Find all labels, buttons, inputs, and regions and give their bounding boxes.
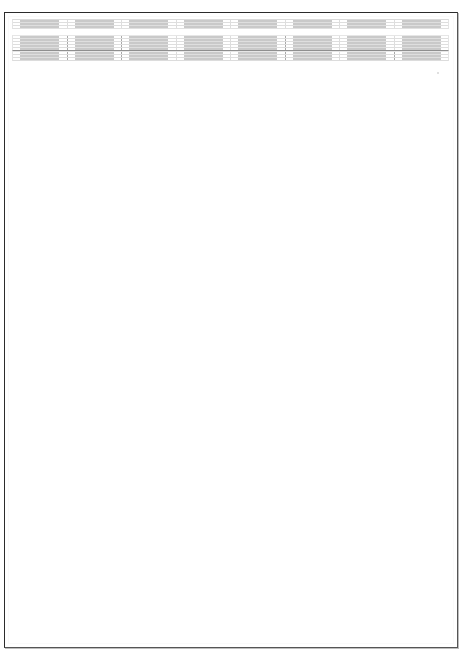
grid-cell[interactable] bbox=[286, 23, 341, 25]
grid-cell[interactable] bbox=[177, 48, 232, 50]
grid-cell[interactable] bbox=[177, 23, 232, 25]
grid-cell[interactable] bbox=[177, 45, 232, 47]
grid-cell[interactable] bbox=[13, 26, 68, 28]
grid-cell[interactable] bbox=[340, 26, 395, 28]
grid-cell[interactable] bbox=[13, 58, 68, 60]
grid-cell[interactable] bbox=[286, 20, 341, 22]
grid-cell[interactable] bbox=[13, 20, 68, 22]
grid-cell[interactable] bbox=[177, 26, 232, 28]
grid-cell[interactable] bbox=[13, 36, 68, 38]
grid-cell[interactable] bbox=[122, 39, 177, 41]
grid-cell[interactable] bbox=[395, 58, 449, 60]
grid-cell[interactable] bbox=[231, 39, 286, 41]
grid-cell[interactable] bbox=[122, 58, 177, 60]
grid-cell[interactable] bbox=[68, 26, 123, 28]
grid-cell[interactable] bbox=[340, 20, 395, 22]
grid-cell[interactable] bbox=[177, 58, 232, 60]
grid-cell[interactable] bbox=[286, 48, 341, 50]
grid-cell[interactable] bbox=[122, 20, 177, 22]
grid-cell[interactable] bbox=[231, 42, 286, 44]
grid-cell[interactable] bbox=[231, 48, 286, 50]
grid-cell[interactable] bbox=[68, 20, 123, 22]
cell-box bbox=[20, 39, 59, 41]
cell-box bbox=[293, 39, 332, 41]
grid-cell[interactable] bbox=[122, 26, 177, 28]
grid-cell[interactable] bbox=[13, 52, 68, 54]
grid-cell[interactable] bbox=[122, 23, 177, 25]
grid-cell[interactable] bbox=[286, 36, 341, 38]
grid-cell[interactable] bbox=[13, 48, 68, 50]
grid-cell[interactable] bbox=[177, 42, 232, 44]
grid-cell[interactable] bbox=[340, 23, 395, 25]
grid-cell[interactable] bbox=[340, 48, 395, 50]
grid-cell[interactable] bbox=[340, 58, 395, 60]
grid-cell[interactable] bbox=[122, 52, 177, 54]
cell-box bbox=[129, 26, 168, 28]
grid-cell[interactable] bbox=[340, 45, 395, 47]
cell-box bbox=[20, 23, 59, 25]
grid-cell[interactable] bbox=[231, 55, 286, 57]
grid-cell[interactable] bbox=[395, 42, 449, 44]
grid-cell[interactable] bbox=[286, 39, 341, 41]
cell-box bbox=[75, 45, 114, 47]
grid-cell[interactable] bbox=[231, 26, 286, 28]
grid-cell[interactable] bbox=[13, 23, 68, 25]
grid-cell[interactable] bbox=[68, 36, 123, 38]
grid-cell[interactable] bbox=[13, 55, 68, 57]
grid-cell[interactable] bbox=[286, 45, 341, 47]
grid-cell[interactable] bbox=[340, 42, 395, 44]
grid-cell[interactable] bbox=[13, 45, 68, 47]
grid-cell[interactable] bbox=[13, 42, 68, 44]
cell-box bbox=[402, 45, 441, 47]
grid-cell[interactable] bbox=[68, 45, 123, 47]
cell-box bbox=[293, 55, 332, 57]
grid-cell[interactable] bbox=[340, 39, 395, 41]
grid-cell[interactable] bbox=[395, 52, 449, 54]
grid-cell[interactable] bbox=[395, 55, 449, 57]
grid-cell[interactable] bbox=[231, 36, 286, 38]
grid-cell[interactable] bbox=[286, 42, 341, 44]
grid-cell[interactable] bbox=[395, 20, 449, 22]
grid-cell[interactable] bbox=[68, 39, 123, 41]
grid-cell[interactable] bbox=[231, 20, 286, 22]
grid-cell[interactable] bbox=[231, 23, 286, 25]
grid-cell[interactable] bbox=[122, 42, 177, 44]
grid-cell[interactable] bbox=[286, 55, 341, 57]
grid-cell[interactable] bbox=[231, 58, 286, 60]
grid-cell[interactable] bbox=[122, 36, 177, 38]
grid-cell[interactable] bbox=[395, 39, 449, 41]
grid-cell[interactable] bbox=[68, 42, 123, 44]
grid-cell[interactable] bbox=[231, 45, 286, 47]
grid-cell[interactable] bbox=[286, 26, 341, 28]
grid-cell[interactable] bbox=[177, 55, 232, 57]
grid-cell[interactable] bbox=[231, 52, 286, 54]
grid-cell[interactable] bbox=[395, 45, 449, 47]
grid-cell[interactable] bbox=[13, 39, 68, 41]
grid-cell[interactable] bbox=[177, 52, 232, 54]
grid-cell[interactable] bbox=[395, 23, 449, 25]
grid-cell[interactable] bbox=[340, 52, 395, 54]
grid-cell[interactable] bbox=[177, 39, 232, 41]
grid-cell[interactable] bbox=[286, 58, 341, 60]
grid-cell[interactable] bbox=[395, 36, 449, 38]
cell-box bbox=[238, 20, 277, 22]
grid-cell[interactable] bbox=[177, 20, 232, 22]
grid-cell[interactable] bbox=[395, 26, 449, 28]
grid-cell[interactable] bbox=[68, 55, 123, 57]
grid-cell[interactable] bbox=[177, 36, 232, 38]
grid-cell[interactable] bbox=[68, 58, 123, 60]
grid-cell[interactable] bbox=[122, 45, 177, 47]
grid-cell[interactable] bbox=[68, 23, 123, 25]
cell-box bbox=[347, 48, 386, 50]
grid-cell[interactable] bbox=[340, 36, 395, 38]
grid-cell[interactable] bbox=[68, 52, 123, 54]
grid-cell[interactable] bbox=[122, 48, 177, 50]
cell-box bbox=[238, 39, 277, 41]
grid-cell[interactable] bbox=[122, 55, 177, 57]
grid-cell[interactable] bbox=[286, 52, 341, 54]
grid-cell[interactable] bbox=[68, 48, 123, 50]
document-sheet bbox=[4, 12, 458, 648]
grid-cell[interactable] bbox=[340, 55, 395, 57]
cell-box bbox=[347, 58, 386, 60]
grid-cell[interactable] bbox=[395, 48, 449, 50]
